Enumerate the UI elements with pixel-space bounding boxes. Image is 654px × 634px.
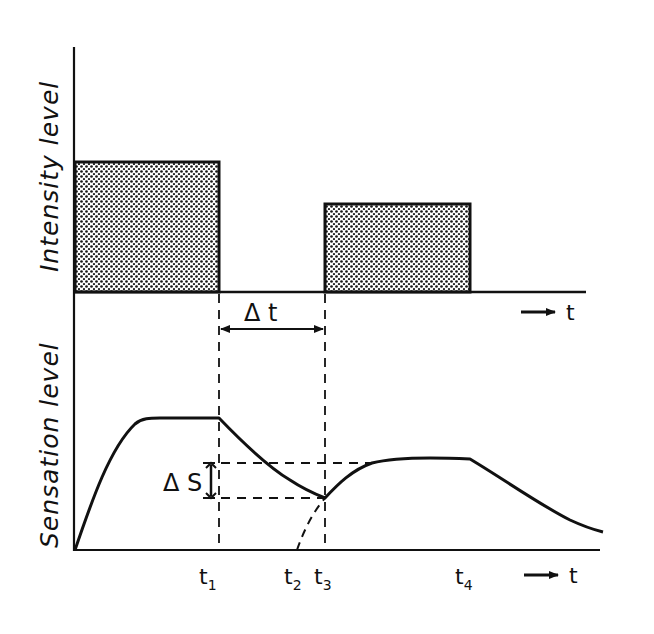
stimulus-1-bar	[75, 162, 219, 292]
svg-text:t3: t3	[314, 564, 332, 593]
sensation-curve	[75, 418, 603, 550]
time-tick-t4: t4	[455, 564, 473, 593]
sensation-ylabel: Sensation level	[35, 342, 64, 548]
intensity-ylabel: Intensity level	[35, 81, 64, 272]
svg-text:t2: t2	[284, 564, 302, 593]
diagram-canvas: Intensity level t Δ t Sensation level	[0, 0, 654, 634]
time-arrow-top-label: t	[566, 300, 575, 325]
intensity-panel: Intensity level t Δ t	[35, 81, 586, 329]
delta-t-label: Δ t	[244, 299, 277, 327]
time-arrow-bottom-label: t	[569, 563, 578, 588]
time-tick-t2: t2	[284, 564, 302, 593]
delta-t-indicator: Δ t	[221, 299, 323, 329]
delta-s-label: Δ S	[163, 469, 202, 497]
stimulus-2-bar	[325, 204, 470, 292]
hypothetical-onset-curve	[297, 498, 325, 550]
svg-text:t4: t4	[455, 564, 473, 593]
sensation-panel: Sensation level Δ S t1 t2 t3 t4	[35, 342, 603, 593]
svg-text:t1: t1	[199, 564, 217, 593]
time-arrow-bottom: t	[524, 563, 578, 588]
time-arrow-top: t	[521, 300, 575, 325]
delta-s-indicator: Δ S	[163, 463, 216, 498]
time-tick-t1: t1	[199, 564, 217, 593]
time-tick-t3: t3	[314, 564, 332, 593]
